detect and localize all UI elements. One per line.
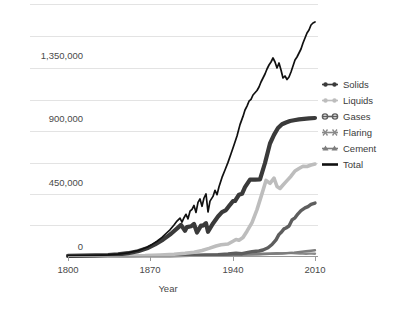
line-marker-liquids-icon [322, 98, 338, 102]
emissions-line-chart: 1,350,000 900,000 450,000 0 1800 [0, 0, 394, 311]
y-tick-label-1350000: 1,350,000 [41, 50, 83, 61]
legend-label-solids: Solids [343, 79, 369, 90]
line-marker-flaring-icon [322, 130, 338, 136]
legend-label-gases: Gases [343, 111, 371, 122]
chart-container: 1,350,000 900,000 450,000 0 1800 [0, 0, 394, 311]
line-marker-solids-icon [322, 82, 338, 86]
legend-label-cement: Cement [343, 143, 377, 154]
x-tick-label-1940: 1940 [222, 264, 243, 275]
legend-item-total[interactable]: Total [322, 159, 363, 170]
legend-item-cement[interactable]: Cement [322, 143, 377, 154]
legend-label-liquids: Liquids [343, 95, 373, 106]
x-tick-label-1870: 1870 [139, 264, 160, 275]
legend-item-flaring[interactable]: Flaring [322, 127, 372, 138]
series-total [68, 22, 315, 256]
series-gases [68, 203, 315, 256]
y-tick-label-450000: 450,000 [49, 177, 83, 188]
y-axis-tick-labels: 1,350,000 900,000 450,000 0 [41, 50, 83, 252]
x-axis-tick-labels: 1800 1870 1940 2010 [57, 264, 325, 275]
legend-label-total: Total [343, 159, 363, 170]
y-tick-label-900000: 900,000 [49, 113, 83, 124]
chart-legend: Solids Liquids Gases [322, 79, 377, 170]
legend-item-solids[interactable]: Solids [322, 79, 369, 90]
legend-label-flaring: Flaring [343, 127, 372, 138]
line-marker-cement-icon [322, 146, 338, 151]
line-marker-gases-icon [322, 114, 338, 119]
x-axis-title: Year [158, 283, 177, 294]
legend-item-gases[interactable]: Gases [322, 111, 371, 122]
y-tick-label-0: 0 [78, 241, 83, 252]
x-tick-label-1800: 1800 [57, 264, 78, 275]
legend-item-liquids[interactable]: Liquids [322, 95, 373, 106]
x-tick-label-2010: 2010 [304, 264, 325, 275]
